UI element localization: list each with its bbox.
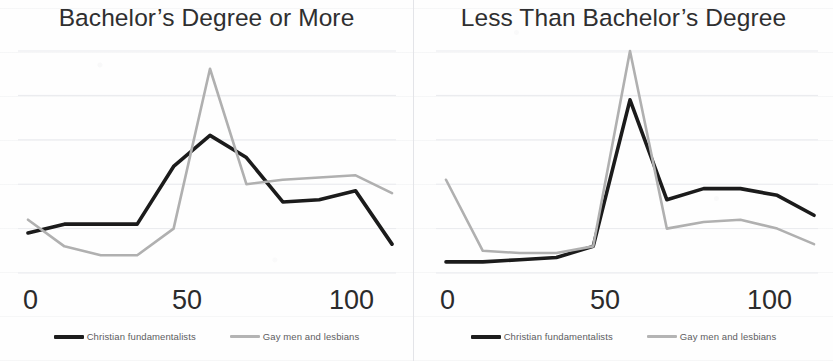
legend-item-gay-men-and-lesbians: Gay men and lesbians — [647, 331, 777, 342]
x-tick-0: 0 — [23, 283, 38, 317]
x-tick-100: 100 — [747, 283, 792, 317]
legend-swatch-light-icon — [230, 335, 260, 338]
x-tick-50: 50 — [172, 283, 202, 317]
plot-area-right — [436, 47, 818, 279]
x-axis-right: 0 50 100 — [414, 283, 833, 317]
page-title-secondary: Less Than Bachelor’s Degree — [414, 4, 833, 32]
x-axis-left: 0 50 100 — [0, 283, 413, 317]
legend-label-christian-fundamentalists: Christian fundamentalists — [504, 331, 613, 342]
legend-item-gay-men-and-lesbians: Gay men and lesbians — [230, 331, 360, 342]
series-line-christian-fundamentalists — [446, 100, 814, 262]
plot-area-left — [18, 47, 396, 279]
legend-item-christian-fundamentalists: Christian fundamentalists — [471, 331, 613, 342]
legend-swatch-dark-icon — [471, 335, 501, 339]
x-tick-100: 100 — [329, 283, 374, 317]
series-line-christian-fundamentalists — [28, 135, 392, 244]
line-chart-right — [436, 47, 818, 279]
chart-panel-bachelors-degree-or-more: Bachelor’s Degree or More 0 50 100 Chris… — [0, 0, 414, 361]
figure-container: Bachelor’s Degree or More 0 50 100 Chris… — [0, 0, 833, 361]
legend-item-christian-fundamentalists: Christian fundamentalists — [54, 331, 196, 342]
legend-label-gay-men-and-lesbians: Gay men and lesbians — [680, 331, 777, 342]
series-line-gay-men-and-lesbians — [28, 69, 392, 255]
line-chart-left — [18, 47, 396, 279]
series-line-gay-men-and-lesbians — [446, 51, 814, 253]
legend-swatch-light-icon — [647, 335, 677, 338]
legend-right: Christian fundamentalists Gay men and le… — [414, 331, 833, 342]
page-title: Bachelor’s Degree or More — [0, 4, 413, 32]
x-tick-0: 0 — [440, 283, 455, 317]
legend-label-gay-men-and-lesbians: Gay men and lesbians — [263, 331, 360, 342]
chart-panel-less-than-bachelors-degree: Less Than Bachelor’s Degree 0 50 100 Chr… — [414, 0, 833, 361]
x-tick-50: 50 — [590, 283, 620, 317]
legend-left: Christian fundamentalists Gay men and le… — [0, 331, 413, 342]
legend-swatch-dark-icon — [54, 335, 84, 339]
legend-label-christian-fundamentalists: Christian fundamentalists — [87, 331, 196, 342]
